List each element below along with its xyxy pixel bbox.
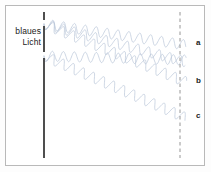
ray-label-b: b <box>196 76 201 85</box>
source-label-line1: blaues <box>8 26 41 37</box>
wave-ray-c <box>44 55 185 121</box>
ray-label-a: a <box>196 38 201 47</box>
diffraction-figure: blaues Licht a b c <box>0 0 211 172</box>
wave-ray-a <box>44 20 186 48</box>
wave-rays-group <box>44 20 187 120</box>
ray-label-c: c <box>196 111 201 120</box>
source-label: blaues Licht <box>8 26 41 48</box>
source-label-line2: Licht <box>8 37 41 48</box>
